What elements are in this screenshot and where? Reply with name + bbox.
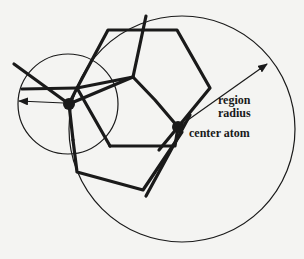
molecule-region-diagram bbox=[0, 0, 304, 259]
region-radius-label: region radius bbox=[218, 94, 251, 120]
center-atom-label: center atom bbox=[189, 127, 250, 140]
neighbor-atom bbox=[63, 98, 75, 110]
region-radius-label-line2: radius bbox=[218, 107, 251, 120]
bonds bbox=[14, 16, 210, 196]
small-radius-arrow bbox=[19, 101, 64, 103]
